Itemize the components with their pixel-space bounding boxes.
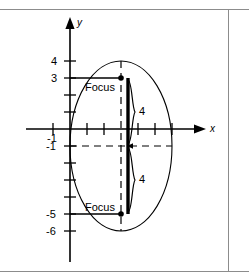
y-tick-label-4: 4 bbox=[51, 56, 57, 67]
brace-label-lower: 4 bbox=[139, 174, 145, 185]
focus-label-lower: Focus bbox=[85, 202, 115, 213]
y-tick-label-neg6: -6 bbox=[46, 226, 56, 237]
y-axis-arrowhead bbox=[65, 17, 74, 29]
x-tick-label-neg1: -1 bbox=[47, 133, 57, 144]
brace-label-upper: 4 bbox=[139, 106, 145, 117]
y-tick-label-3: 3 bbox=[51, 73, 57, 84]
x-axis-arrowhead bbox=[194, 124, 206, 133]
focus-point-upper bbox=[118, 75, 124, 81]
focus-label-upper: Focus bbox=[85, 82, 115, 93]
x-axis-label: x bbox=[210, 124, 215, 134]
figure-root: y x 4 3 -1 -5 -6 -1 Focus Focus 4 4 bbox=[0, 0, 249, 280]
focus-point-lower bbox=[118, 211, 124, 217]
y-tick-label-neg5: -5 bbox=[46, 209, 56, 220]
y-axis-label: y bbox=[77, 18, 82, 28]
ellipse-diagram bbox=[0, 0, 249, 280]
